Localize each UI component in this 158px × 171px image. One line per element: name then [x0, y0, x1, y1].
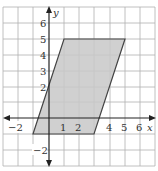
x-tick-1: 1	[60, 122, 66, 133]
y-tick-3: 3	[40, 66, 46, 77]
y-tick-neg2: −2	[33, 145, 48, 156]
y-tick-2: 2	[40, 82, 46, 93]
x-tick-6: 6	[136, 122, 142, 133]
x-tick-2: 2	[75, 122, 81, 133]
y-tick-4: 4	[40, 50, 46, 61]
parallelogram	[33, 39, 125, 134]
y-tick-5: 5	[40, 34, 46, 45]
y-tick-6: 6	[40, 18, 46, 29]
x-axis-left-arrow-icon	[3, 115, 10, 121]
x-tick-5: 5	[121, 122, 127, 133]
y-axis-label: y	[52, 7, 59, 18]
x-tick-neg2: −2	[8, 122, 23, 133]
coordinate-plane: y x −2 1 2 4 5 6 6 5 4 3 2 −2	[0, 0, 158, 171]
x-tick-4: 4	[106, 122, 112, 133]
